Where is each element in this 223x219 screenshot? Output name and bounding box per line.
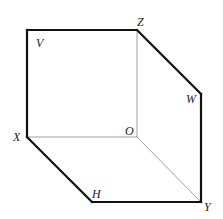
label-x: X <box>12 130 21 144</box>
bold-edge-hx <box>27 137 92 202</box>
label-o: O <box>125 124 134 138</box>
label-h: H <box>91 187 102 201</box>
outline-edges <box>27 30 201 202</box>
label-v: V <box>36 36 45 50</box>
thin-edge-oy <box>137 137 201 202</box>
vertex-labels: V Z W Y H X O <box>12 15 212 214</box>
cube-diagram: V Z W Y H X O <box>0 0 223 219</box>
label-w: W <box>186 92 197 106</box>
hidden-edges <box>27 30 201 202</box>
bold-edge-zw <box>137 30 201 94</box>
label-y: Y <box>204 200 212 214</box>
label-z: Z <box>137 15 144 29</box>
